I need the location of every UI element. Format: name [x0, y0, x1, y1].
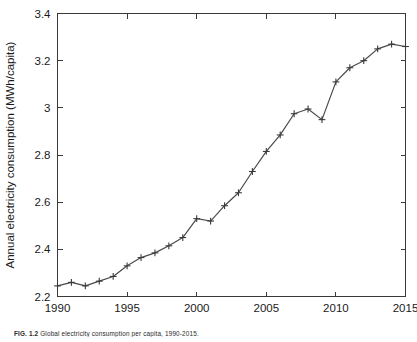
y-tick-label: 3.4 [35, 8, 52, 20]
y-tick-label: 3 [44, 102, 50, 114]
y-axis-tick-labels: 2.22.42.62.833.23.4 [35, 8, 52, 303]
x-tick-label: 1990 [45, 302, 71, 314]
y-tick-label: 3.2 [35, 55, 51, 67]
data-point-marker [82, 282, 89, 289]
x-tick-label: 2010 [323, 302, 349, 314]
data-point-marker [402, 43, 409, 50]
data-point-marker [138, 254, 145, 261]
chart-plot-area: 2.22.42.62.833.23.4 19901995200020052010… [0, 0, 417, 316]
line-chart-svg: 2.22.42.62.833.23.4 19901995200020052010… [0, 0, 417, 316]
y-axis-ticks [58, 14, 406, 297]
data-point-marker [68, 279, 75, 286]
axes-frame [58, 14, 406, 297]
y-tick-label: 2.8 [35, 149, 51, 161]
caption-label: FIG. 1.2 [14, 330, 38, 337]
x-axis-ticks [58, 14, 406, 297]
data-point-marker [54, 282, 61, 289]
data-point-marker [388, 41, 395, 48]
caption-text: Global electricity consumption per capit… [40, 330, 199, 337]
data-point-markers [54, 41, 409, 290]
x-tick-label: 2015 [393, 302, 417, 314]
data-series-line [58, 44, 406, 286]
data-point-marker [165, 242, 172, 249]
x-tick-label: 2005 [254, 302, 280, 314]
data-point-marker [96, 278, 103, 285]
y-tick-label: 2.6 [35, 196, 51, 208]
figure-container: 2.22.42.62.833.23.4 19901995200020052010… [0, 0, 417, 342]
data-point-marker [291, 110, 298, 117]
figure-caption: FIG. 1.2 Global electricity consumption … [14, 330, 414, 337]
data-point-marker [152, 249, 159, 256]
y-tick-label: 2.4 [35, 243, 52, 255]
y-axis-title: Annual electricity consumption (MWh/capi… [4, 41, 16, 268]
x-tick-label: 1995 [114, 302, 140, 314]
x-axis-tick-labels: 199019952000200520102015 [45, 302, 417, 314]
x-tick-label: 2000 [184, 302, 210, 314]
